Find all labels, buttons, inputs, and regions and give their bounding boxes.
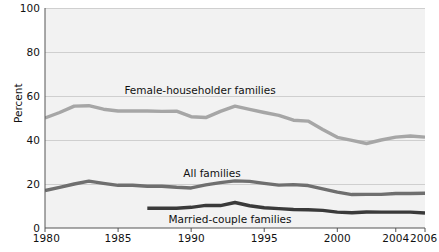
plot-area bbox=[45, 8, 425, 228]
y-tick-20: 20 bbox=[6, 179, 40, 190]
x-tick-1995: 1995 bbox=[251, 232, 278, 244]
series-line-1 bbox=[45, 181, 425, 195]
series-line-2 bbox=[147, 202, 425, 213]
series-label-all-families: All families bbox=[183, 168, 240, 179]
x-tick-2004: 2004 bbox=[382, 232, 409, 244]
x-tick-2006: 2006 bbox=[410, 232, 437, 244]
series-label-female-householder: Female-householder families bbox=[124, 85, 275, 96]
y-tick-100: 100 bbox=[6, 3, 40, 14]
poverty-rate-line-chart: 100 80 60 40 20 0 Percent 19801985199019… bbox=[0, 0, 439, 252]
x-tick-2000: 2000 bbox=[324, 232, 351, 244]
x-tick-1980: 1980 bbox=[33, 232, 60, 244]
y-tick-80: 80 bbox=[6, 47, 40, 58]
y-axis-title: Percent bbox=[13, 68, 24, 138]
x-axis-tick-labels: 1980198519901995200020042006 bbox=[0, 232, 439, 250]
series-line-0 bbox=[45, 106, 425, 144]
x-tick-1985: 1985 bbox=[105, 232, 132, 244]
series-lines bbox=[45, 106, 425, 213]
series-label-married-couple: Married-couple families bbox=[168, 214, 291, 225]
plot-canvas bbox=[45, 8, 425, 228]
x-tick-1990: 1990 bbox=[178, 232, 205, 244]
